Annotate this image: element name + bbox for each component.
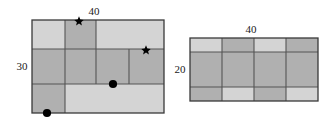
right-cell-r3c4: [286, 87, 318, 101]
left-cell-r2c1: [32, 49, 65, 84]
right-cell-r2c1: [190, 52, 222, 87]
left-cell-r2c2: [65, 49, 96, 84]
right-cell-r2c3: [254, 52, 286, 87]
right-cell-r1c1: [190, 38, 222, 52]
right-cell-r1c3: [254, 38, 286, 52]
right-cell-r3c1: [190, 87, 222, 101]
left-height-label: 30: [17, 60, 29, 72]
left-cell-r3c1: [32, 84, 65, 113]
right-cell-r1c2: [222, 38, 254, 52]
right-cell-r3c3: [254, 87, 286, 101]
left-rectangle: 40 30: [17, 5, 165, 117]
right-cell-r2c4: [286, 52, 318, 87]
right-cell-r2c2: [222, 52, 254, 87]
dot-icon: [43, 109, 51, 117]
left-width-label: 40: [89, 5, 101, 17]
left-cell-r2c4: [129, 49, 164, 84]
left-cell-r3c2: [65, 84, 164, 113]
right-rectangle: 40 20: [175, 23, 319, 101]
right-cell-r1c4: [286, 38, 318, 52]
right-height-label: 20: [175, 63, 187, 75]
geometry-figure: 40 30: [0, 0, 335, 128]
left-cell-r1c3: [96, 20, 164, 49]
right-cell-r3c2: [222, 87, 254, 101]
dot-icon: [109, 80, 117, 88]
left-cell-r1c1: [32, 20, 65, 49]
figure-root: 40 30: [0, 0, 335, 128]
right-width-label: 40: [246, 23, 258, 35]
left-cell-r2c3: [96, 49, 129, 84]
